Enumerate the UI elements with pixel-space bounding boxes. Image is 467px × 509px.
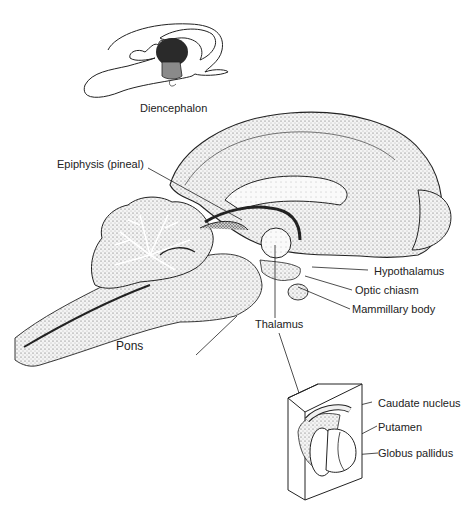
label-epiphysis: Epiphysis (pineal) [57, 158, 144, 170]
basal-ganglia-box [288, 384, 362, 500]
label-optic-chiasm: Optic chiasm [355, 284, 419, 296]
label-hypothalamus: Hypothalamus [374, 265, 444, 277]
label-putamen: Putamen [378, 421, 422, 433]
label-mammillary-body: Mammillary body [352, 303, 435, 315]
label-diencephalon: Diencephalon [140, 102, 207, 114]
diencephalon-inset [84, 24, 228, 98]
label-caudate-nucleus: Caudate nucleus [378, 397, 461, 409]
label-pons: Pons [116, 340, 143, 352]
label-thalamus: Thalamus [255, 318, 303, 330]
label-globus-pallidus: Globus pallidus [378, 447, 453, 459]
